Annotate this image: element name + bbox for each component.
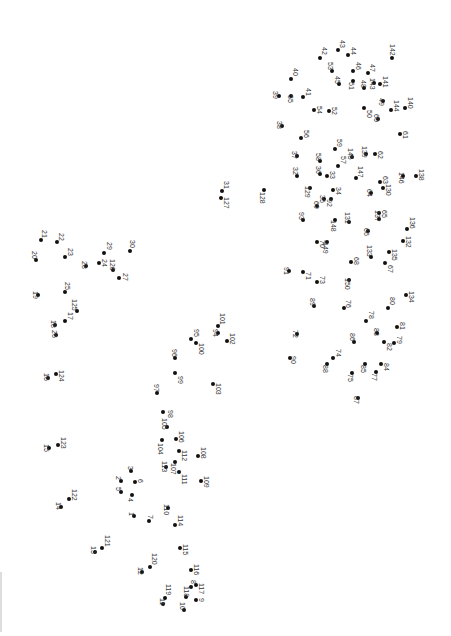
dot-number-label: 20 (31, 251, 38, 259)
dot-number-label: 53 (327, 62, 334, 70)
dot-number-label: 130 (385, 184, 392, 196)
dot-number-label: 149 (322, 242, 329, 254)
dot-number-label: 55 (287, 95, 294, 103)
dot-number-label: 42 (321, 47, 328, 55)
dot-point[interactable] (386, 306, 390, 310)
dot-number-label: 35 (319, 195, 326, 203)
dot-number-label: 85 (360, 365, 367, 373)
dot-number-label: 75 (347, 374, 354, 382)
dot-number-label: 123 (60, 437, 67, 449)
dot-number-label: 21 (41, 230, 48, 238)
dot-number-label: 88 (322, 365, 329, 373)
dot-number-label: 122 (71, 489, 78, 501)
dot-number-label: 51 (348, 82, 355, 90)
dot-number-label: 143 (369, 78, 376, 90)
dot-point[interactable] (148, 565, 152, 569)
dot-number-label: 105 (161, 418, 168, 430)
dot-number-label: 111 (181, 474, 188, 485)
dot-point[interactable] (189, 337, 193, 341)
dot-point[interactable] (318, 56, 322, 60)
dot-number-label: 39 (272, 91, 279, 99)
dot-number-label: 32 (292, 167, 299, 175)
dot-number-label: 24 (101, 259, 108, 267)
dot-number-label: 78 (368, 311, 375, 319)
dot-point[interactable] (63, 290, 67, 294)
dot-number-label: 66 (363, 228, 370, 236)
dot-number-label: 77 (371, 373, 378, 381)
dot-point[interactable] (364, 319, 368, 323)
dot-number-label: 113 (161, 461, 168, 472)
dot-number-label: 15 (43, 444, 50, 452)
dot-number-label: 57 (340, 156, 347, 164)
dot-number-label: 124 (58, 370, 65, 382)
dot-number-label: 136 (409, 217, 416, 229)
dot-point[interactable] (147, 519, 151, 523)
dot-point[interactable] (390, 56, 394, 60)
dot-number-label: 107 (170, 463, 177, 475)
dot-point[interactable] (39, 238, 43, 242)
dot-number-label: 131 (344, 212, 351, 224)
dot-point[interactable] (173, 371, 177, 375)
dot-point[interactable] (220, 189, 224, 193)
page-edge-mark (0, 572, 2, 632)
dot-number-label: 23 (67, 248, 74, 256)
dot-number-label: 126 (109, 259, 116, 271)
dot-number-label: 145 (347, 148, 354, 160)
dot-number-label: 90 (290, 356, 297, 364)
dot-number-label: 52 (331, 107, 338, 115)
dot-number-label: 49 (378, 98, 385, 106)
dot-number-label: 116 (193, 564, 200, 575)
dot-point[interactable] (161, 410, 165, 414)
dot-number-label: 38 (276, 121, 283, 129)
dot-point[interactable] (336, 48, 340, 52)
dot-number-label: 95 (193, 329, 200, 337)
dot-number-label: 5 (115, 487, 122, 491)
dot-number-label: 109 (203, 476, 210, 488)
dot-number-label: 114 (177, 515, 184, 526)
dot-number-label: 2 (115, 476, 122, 480)
dot-number-label: 94 (212, 329, 219, 337)
dot-number-label: 64 (366, 189, 373, 197)
dot-number-label: 118 (183, 586, 190, 597)
dot-number-label: 65 (381, 210, 388, 218)
dot-number-label: 10 (179, 602, 186, 610)
dot-number-label: 9 (198, 598, 205, 602)
dot-point[interactable] (289, 77, 293, 81)
dot-number-label: 141 (382, 76, 389, 88)
dot-point[interactable] (160, 438, 164, 442)
dot-number-label: 119 (165, 584, 172, 595)
dot-number-label: 62 (377, 151, 384, 159)
dot-number-label: 84 (383, 363, 390, 371)
dot-number-label: 128 (259, 192, 266, 204)
dot-number-label: 37 (291, 151, 298, 159)
dot-point[interactable] (130, 493, 134, 497)
dot-number-label: 142 (389, 44, 396, 56)
dot-number-label: 79 (396, 336, 403, 344)
dot-point[interactable] (163, 596, 167, 600)
dot-number-label: 61 (402, 131, 409, 139)
dot-number-label: 100 (198, 343, 205, 355)
dot-number-label: 74 (335, 349, 342, 357)
dot-number-label: 27 (122, 273, 129, 281)
dot-number-label: 137 (374, 210, 381, 222)
dot-point[interactable] (336, 164, 340, 168)
dot-number-label: 83 (373, 328, 380, 336)
dot-number-label: 1 (128, 512, 135, 516)
dot-number-label: 13 (90, 546, 97, 554)
dot-number-label: 46 (355, 62, 362, 70)
dot-number-label: 56 (303, 130, 310, 138)
dot-number-label: 87 (353, 396, 360, 404)
dot-number-label: 34 (335, 187, 342, 195)
dot-number-label: 22 (58, 233, 65, 241)
dot-number-label: 26 (51, 330, 58, 338)
dot-point[interactable] (102, 251, 106, 255)
dot-point[interactable] (117, 276, 121, 280)
dot-point[interactable] (333, 147, 337, 151)
dot-number-label: 110 (163, 504, 170, 515)
dot-number-label: 97 (153, 384, 160, 392)
dot-number-label: 89 (309, 298, 316, 306)
dot-number-label: 40 (292, 68, 299, 76)
dot-number-label: 144 (393, 100, 400, 112)
dot-number-label: 36 (315, 166, 322, 174)
dot-point[interactable] (128, 249, 132, 253)
